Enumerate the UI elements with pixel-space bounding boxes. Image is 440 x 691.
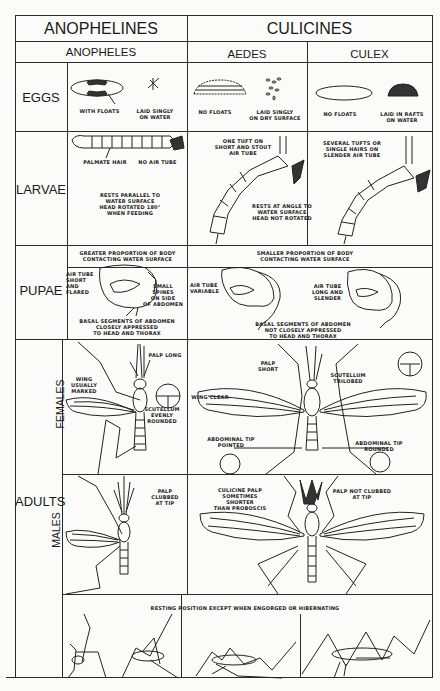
header-anophelines: ANOPHELINES [15,20,187,38]
pupa-label-basal-not-closely: BASAL SEGMENTS OF ABDOMEN NOT CLOSELY AP… [248,321,358,339]
female-label-tip-rounded: ABDOMINAL TIP ROUNDED [354,440,404,452]
larva-label-palmate-hair: PALMATE HAIR [80,159,130,165]
header-culicines: CULICINES [187,20,432,38]
culex-egg-raft-icon [386,82,420,98]
egg-label-laid-singly-dry: LAID SINGLY ON DRY SURFACE [245,109,305,121]
anopheles-resting-illustration [62,604,182,678]
anopheles-egg-illustration [70,78,130,100]
female-label-tip-pointed: ABDOMINAL TIP POINTED [206,436,256,448]
pupa-label-basal-closely: BASAL SEGMENTS OF ABDOMEN CLOSELY APPRES… [72,318,182,336]
aedes-scattered-eggs-icon [262,76,284,104]
larva-label-several-tufts: SEVERAL TUFTS OR SINGLE HAIRS ON SLENDER… [322,140,382,158]
male-label-culicine-palp: CULICINE PALP SOMETIMES SHORTER THAN PRO… [208,487,272,511]
pupa-label-air-tube-variable: AIR TUBE VARIABLE [190,282,220,294]
row-label-larvae: LARVAE [15,182,67,197]
aedes-egg-illustration [192,78,248,98]
culex-resting-illustration [300,618,432,678]
egg-label-culex-no-floats: NO FLOATS [315,111,365,117]
row-label-males: MALES [50,505,62,555]
pupa-label-air-tube-long: AIR TUBE LONG AND SLENDER [300,283,355,301]
female-label-wing-marked: WING USUALLY MARKED [66,376,102,394]
row-label-pupae: PUPAE [15,283,67,298]
anopheles-larva-illustration [70,132,186,154]
egg-label-laid-singly-water: LAID SINGLY ON WATER [130,108,180,120]
header-anopheles: ANOPHELES [15,46,187,58]
egg-label-with-floats: WITH FLOATS [72,108,127,114]
larva-label-rests-parallel: RESTS PARALLEL TO WATER SURFACE HEAD ROT… [85,192,175,216]
pupa-label-air-tube-short: AIR TUBE SHORT AND FLARED [66,271,96,295]
male-label-palp-clubbed: PALP CLUBBED AT TIP [146,488,184,506]
pupa-label-greater-proportion: GREATER PROPORTION OF BODY CONTACTING WA… [70,250,185,262]
header-aedes: AEDES [187,48,307,60]
pupa-label-smaller-proportion: SMALLER PROPORTION OF BODY CONTACTING WA… [240,250,370,262]
larva-label-rests-angle: RESTS AT ANGLE TO WATER SURFACE HEAD NOT… [242,203,322,221]
aedes-resting-illustration [182,620,300,678]
female-label-palp-long: PALP LONG [148,352,182,358]
female-label-palp-short: PALP SHORT [250,360,286,372]
larva-label-no-air-tube: NO AIR TUBE [135,159,180,165]
egg-label-aedes-no-floats: NO FLOATS [190,109,240,115]
anopheles-single-egg-icon [146,76,162,92]
larva-label-one-tuft: ONE TUFT ON SHORT AND STOUT AIR TUBE [213,138,273,156]
egg-label-laid-in-rafts: LAID IN RAFTS ON WATER [374,111,430,123]
female-label-scutellum-rounded: SCUTELLUM EVENLY ROUNDED [140,406,184,424]
female-label-wing-clear: WING CLEAR [190,394,230,400]
header-culex: CULEX [307,48,432,60]
male-label-palp-not-clubbed: PALP NOT CLUBBED AT TIP [330,488,394,500]
pupa-label-small-spines: SMALL SPINES ON SIDE OF ABDOMEN [142,283,184,307]
female-label-scutellum-trilobed: SCUTELLUM TRILOBED [328,372,368,384]
culex-egg-illustration [314,84,374,102]
culicine-female-illustration [188,340,430,474]
row-label-eggs: EGGS [15,90,67,105]
